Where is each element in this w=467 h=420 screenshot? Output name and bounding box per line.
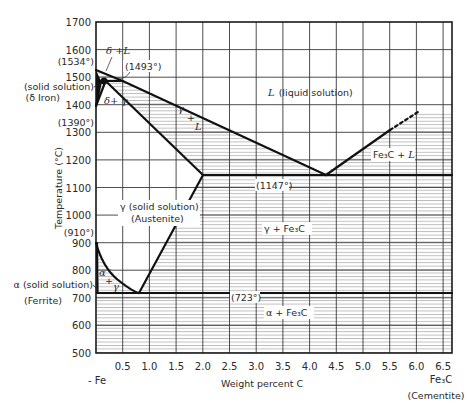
y-tick: 1000 bbox=[66, 210, 91, 221]
x-tick: 0.5 bbox=[115, 361, 131, 372]
y-tick: 1700 bbox=[66, 17, 91, 28]
x-tick: 2.5 bbox=[222, 361, 238, 372]
x-tick: 4.5 bbox=[328, 361, 344, 372]
y-tick: 500 bbox=[72, 348, 91, 359]
temp-1493-label: (1493°) bbox=[125, 61, 161, 72]
temp-1147-label: (1147°) bbox=[256, 180, 292, 191]
temp-1534-label: (1534°) bbox=[58, 56, 94, 67]
x-tick: 6.5 bbox=[435, 361, 451, 372]
region-alpha-fe3c bbox=[97, 293, 452, 353]
y-tick: 1300 bbox=[66, 127, 91, 138]
delta-iron-label: (δ Iron) bbox=[25, 92, 60, 103]
delta-liquid-pointer bbox=[106, 57, 112, 71]
x-tick: 2.0 bbox=[195, 361, 211, 372]
y-axis-ticks: 1700 1600 1500 1400 1300 1200 1100 1000 … bbox=[66, 17, 91, 359]
y-tick: 1100 bbox=[66, 183, 91, 194]
alpha-solid-solution-label: α (solid solution) bbox=[14, 279, 93, 290]
y-tick: 700 bbox=[72, 293, 91, 304]
x-tick: 3.5 bbox=[275, 361, 291, 372]
x-tick: 5.5 bbox=[382, 361, 398, 372]
x-tick: 1.5 bbox=[168, 361, 184, 372]
temp-723-label: (723°) bbox=[231, 292, 261, 303]
gamma-liquid-plus: + bbox=[187, 112, 195, 123]
cementite-label: (Cementite) bbox=[408, 390, 465, 401]
x-tick: 5.0 bbox=[355, 361, 371, 372]
gamma-fe3c-label: γ + Fe₃C bbox=[264, 223, 305, 234]
region-fe3c-liquid bbox=[322, 113, 452, 175]
alpha-solvus bbox=[97, 243, 98, 293]
y-tick: 600 bbox=[72, 320, 91, 331]
temp-1390-label: (1390°) bbox=[58, 117, 94, 128]
y-tick: 1200 bbox=[66, 155, 91, 166]
ferrite-label: (Ferrite) bbox=[24, 295, 62, 306]
x-tick: 4.0 bbox=[302, 361, 318, 372]
peritectic-point bbox=[101, 78, 108, 85]
gamma-liquid-gamma: γ bbox=[178, 103, 184, 114]
fe3c-liquid-label: Fe₃C + L bbox=[373, 149, 415, 160]
temp-910-label: (910°) bbox=[64, 227, 94, 238]
iron-carbon-phase-diagram: 1700 1600 1500 1400 1300 1200 1100 1000 … bbox=[0, 0, 467, 420]
alpha-gamma-plus: + bbox=[105, 275, 113, 286]
y-tick: 1400 bbox=[66, 100, 91, 111]
gamma-liquid-l: L bbox=[194, 121, 202, 132]
austenite-label: (Austenite) bbox=[131, 213, 184, 224]
gamma-solid-solution-label: γ (solid solution) bbox=[120, 201, 199, 212]
delta-gamma-label: δ+ γ bbox=[104, 95, 128, 106]
x-tick: 3.0 bbox=[248, 361, 264, 372]
fe3c-label: Fe₃C bbox=[430, 374, 452, 385]
alpha-gamma-gamma: γ bbox=[113, 281, 119, 292]
delta-liquid-label: δ +L bbox=[106, 45, 131, 56]
x-axis-ticks: 0.5 1.0 1.5 2.0 2.5 3.0 3.5 4.0 4.5 5.0 … bbox=[115, 361, 451, 372]
y-tick: 900 bbox=[72, 238, 91, 249]
fe-label: - Fe bbox=[88, 375, 106, 386]
liquid-label: L(liquid solution) bbox=[267, 87, 353, 98]
alpha-fe3c-label: α + Fe₃C bbox=[266, 307, 308, 318]
x-axis-title: Weight percent C bbox=[221, 378, 304, 389]
y-tick: 800 bbox=[72, 265, 91, 276]
y-tick: 1600 bbox=[66, 45, 91, 56]
delta-solid-solution-label: (solid solution) bbox=[24, 81, 94, 92]
x-tick: 6.0 bbox=[408, 361, 424, 372]
y-axis-title: Temperature (°C) bbox=[53, 147, 64, 230]
x-tick: 1.0 bbox=[141, 361, 157, 372]
